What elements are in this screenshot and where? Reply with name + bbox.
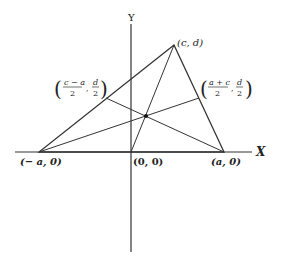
svg-text:): ) xyxy=(245,77,253,101)
diagram-canvas: Y X (c, d) (− a, 0) (0, 0) (a, 0) ( c − … xyxy=(0,0,282,269)
left-midpoint-label: ( c − a 2 , d 2 ) xyxy=(54,77,108,101)
svg-text:(: ( xyxy=(54,77,62,101)
median-from-top xyxy=(131,45,174,152)
svg-text:d: d xyxy=(237,78,242,87)
median-from-right xyxy=(106,98,224,152)
svg-text:a + c: a + c xyxy=(209,78,231,87)
svg-text:2: 2 xyxy=(93,89,98,98)
y-axis-label: Y xyxy=(127,12,135,23)
svg-text:,: , xyxy=(231,84,234,93)
svg-text:2: 2 xyxy=(70,89,75,98)
left-vertex-label: (− a, 0) xyxy=(20,156,62,168)
svg-text:c − a: c − a xyxy=(64,78,85,87)
right-midpoint-label: ( a + c 2 , d 2 ) xyxy=(200,77,253,101)
svg-text:(: ( xyxy=(200,77,208,101)
centroid-point xyxy=(144,114,148,118)
median-from-left xyxy=(39,98,199,152)
origin-label: (0, 0) xyxy=(133,156,163,168)
x-axis-label: X xyxy=(255,145,266,159)
svg-text:): ) xyxy=(100,77,108,101)
right-vertex-label: (a, 0) xyxy=(211,156,241,168)
top-vertex-label: (c, d) xyxy=(177,37,203,48)
svg-text:2: 2 xyxy=(237,89,242,98)
svg-text:2: 2 xyxy=(215,89,220,98)
svg-text:d: d xyxy=(93,78,98,87)
svg-text:,: , xyxy=(86,84,89,93)
